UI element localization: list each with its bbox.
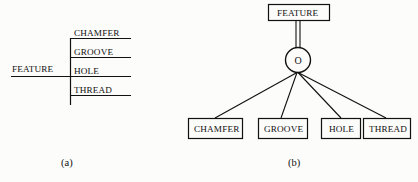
panel-b-circle-label: O (295, 55, 302, 66)
panel-b-connector-chamfer (215, 73, 297, 119)
panel-b-connector-hole (298, 73, 341, 119)
panel-b-child-label-chamfer: CHAMFER (194, 124, 240, 134)
panel-b-connector-thread (298, 73, 386, 119)
panel-a-caption: (a) (61, 157, 73, 169)
panel-b-child-label-hole: HOLE (329, 124, 354, 134)
panel-b-caption: (b) (288, 157, 301, 169)
panel-b-child-label-thread: THREAD (369, 124, 407, 134)
figure-svg: FEATURE CHAMFER GROOVE HOLE THREAD (a) (0, 0, 418, 182)
panel-a-root-label: FEATURE (12, 64, 54, 74)
panel-a-item-label-groove: GROOVE (74, 47, 113, 57)
panel-a-group: FEATURE CHAMFER GROOVE HOLE THREAD (a) (11, 28, 131, 169)
panel-b-group: FEATURE O CHAMFER GROOVE HOLE THREAD (189, 5, 411, 170)
figure-canvas: FEATURE CHAMFER GROOVE HOLE THREAD (a) (0, 0, 418, 182)
panel-a-item-label-thread: THREAD (74, 85, 112, 95)
panel-b-child-label-groove: GROOVE (264, 124, 303, 134)
panel-a-item-label-hole: HOLE (74, 66, 99, 76)
panel-a-item-label-chamfer: CHAMFER (74, 28, 120, 38)
panel-b-root-label: FEATURE (277, 8, 319, 18)
panel-b-connector-groove (281, 73, 297, 119)
